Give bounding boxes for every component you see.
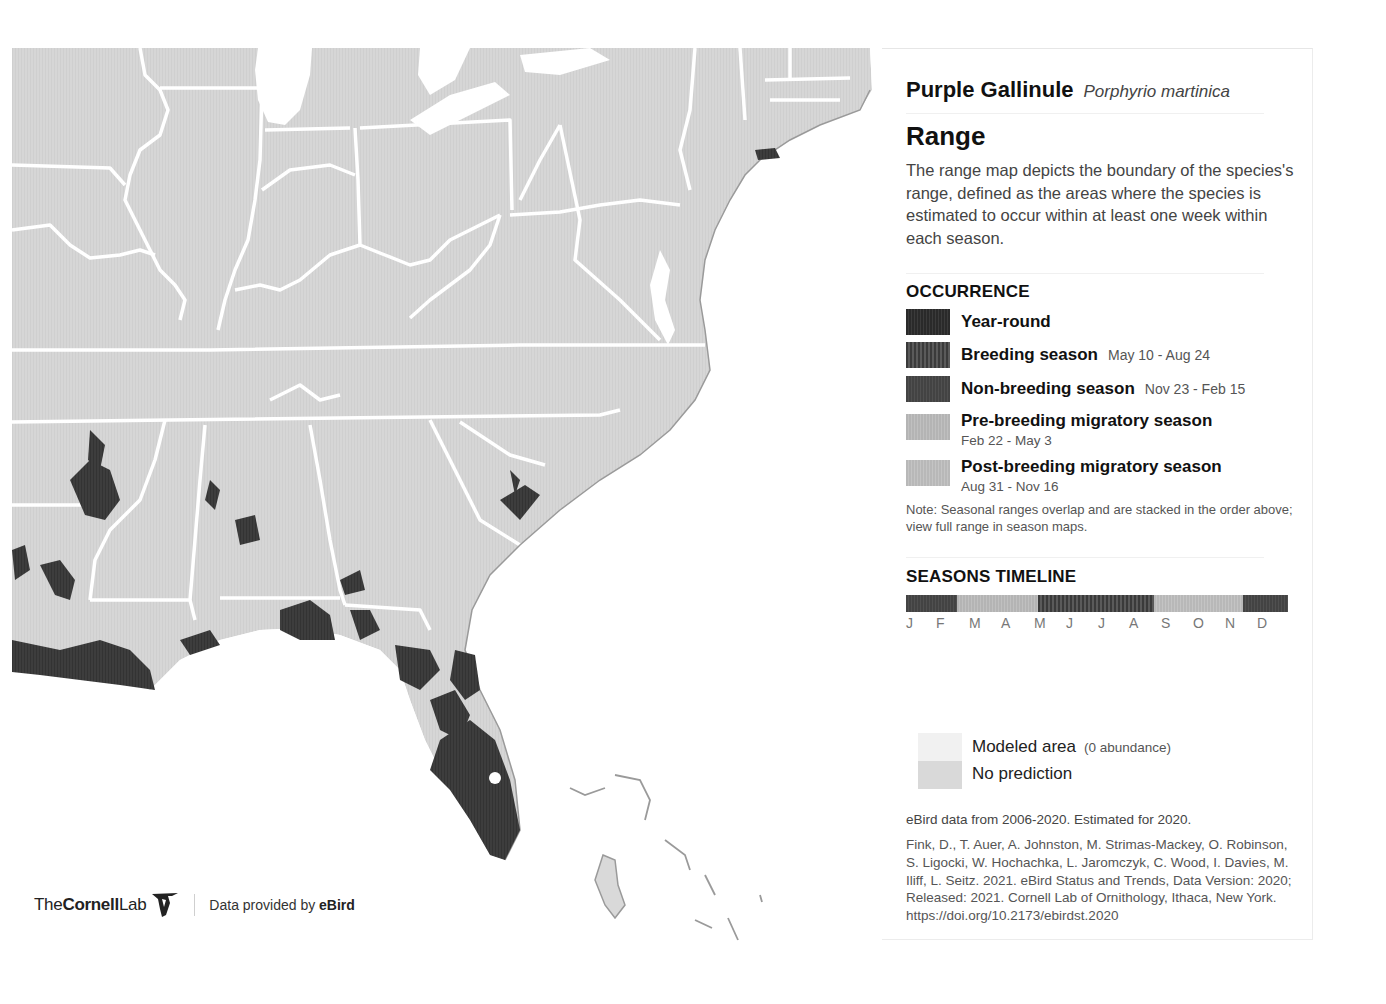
data-years: eBird data from 2006-2020. Estimated for…: [906, 812, 1191, 827]
modeled-area-swatch: [918, 733, 962, 761]
seasons-timeline-heading: SEASONS TIMELINE: [906, 567, 1076, 587]
post-breeding-swatch: [906, 460, 950, 486]
no-prediction-label: No prediction: [972, 764, 1072, 784]
year-round-swatch: [906, 309, 950, 335]
breeding-swatch: [906, 342, 950, 368]
map-credits: TheCornellLab Data provided by eBird: [34, 890, 355, 920]
seasons-timeline-bar: [906, 595, 1288, 612]
timeline-non-breeding: [906, 595, 957, 612]
credits-divider: [194, 894, 195, 916]
divider: [906, 557, 1264, 558]
range-description: The range map depicts the boundary of th…: [906, 159, 1298, 249]
occurrence-heading: OCCURRENCE: [906, 282, 1030, 302]
no-prediction-swatch: [918, 761, 962, 789]
timeline-months: J F M A M J J A S O N D: [906, 615, 1288, 633]
species-scientific-name: Porphyrio martinica: [1083, 82, 1229, 101]
modeled-area-label: Modeled area(0 abundance): [972, 737, 1171, 757]
legend-panel: Purple GallinulePorphyrio martinica Rang…: [882, 48, 1313, 940]
map-canvas: [0, 0, 900, 1004]
citation: Fink, D., T. Auer, A. Johnston, M. Strim…: [906, 836, 1298, 925]
timeline-pre-breeding: [957, 595, 1038, 612]
occurrence-note: Note: Seasonal ranges overlap and are st…: [906, 501, 1296, 535]
ebird-link[interactable]: eBird: [319, 897, 355, 913]
non-breeding-swatch: [906, 376, 950, 402]
cornell-bird-icon: [150, 891, 180, 919]
timeline-non-breeding: [1243, 595, 1288, 612]
species-title: Purple GallinulePorphyrio martinica: [906, 77, 1230, 103]
range-heading: Range: [906, 121, 985, 152]
lake-okeechobee: [489, 772, 501, 784]
divider: [906, 273, 1264, 274]
cornell-lab-logo[interactable]: TheCornellLab: [34, 895, 146, 915]
pre-breeding-swatch: [906, 414, 950, 440]
species-common-name: Purple Gallinule: [906, 77, 1073, 102]
range-map[interactable]: [0, 0, 900, 1004]
divider: [906, 113, 1264, 114]
doi-link[interactable]: https://doi.org/10.2173/ebirdst.2020: [906, 908, 1118, 923]
timeline-post-breeding: [1154, 595, 1243, 612]
data-provider: Data provided by eBird: [209, 897, 355, 913]
timeline-breeding: [1038, 595, 1154, 612]
